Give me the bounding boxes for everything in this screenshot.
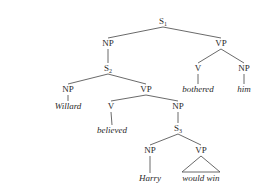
category-label: V bbox=[108, 101, 115, 111]
tree-branch bbox=[108, 74, 146, 84]
category-label: NP bbox=[144, 145, 156, 155]
syntax-tree-diagram: S1NPVPS2VNPbotheredhimNPVPWillardVNPbeli… bbox=[0, 0, 267, 193]
category-label: NP bbox=[238, 63, 250, 73]
tree-nodes: S1NPVPS2VNPbotheredhimNPVPWillardVNPbeli… bbox=[55, 16, 252, 183]
category-label: S1 bbox=[159, 16, 167, 27]
category-label: S2 bbox=[104, 63, 112, 74]
category-label: VP bbox=[140, 84, 152, 94]
tree-branch bbox=[150, 134, 178, 145]
tree-edges bbox=[68, 27, 244, 173]
tree-branch bbox=[108, 27, 163, 38]
terminal-word: would win bbox=[182, 173, 220, 183]
category-label: S3 bbox=[174, 123, 182, 134]
tree-branch bbox=[163, 27, 221, 38]
tree-branch bbox=[221, 49, 244, 63]
tree-branch bbox=[178, 134, 201, 145]
category-label: NP bbox=[172, 101, 184, 111]
tree-branch bbox=[198, 49, 221, 63]
category-label: NP bbox=[62, 84, 74, 94]
category-label: VP bbox=[215, 38, 227, 48]
terminal-word: him bbox=[237, 84, 251, 94]
category-label: NP bbox=[102, 38, 114, 48]
terminal-word: bothered bbox=[182, 84, 214, 94]
constituent-triangle bbox=[182, 156, 220, 172]
terminal-word: Harry bbox=[138, 173, 161, 183]
category-label: V bbox=[195, 63, 202, 73]
category-label: VP bbox=[195, 145, 207, 155]
terminal-word: believed bbox=[97, 125, 127, 135]
tree-branch bbox=[111, 112, 112, 125]
tree-branch bbox=[68, 74, 108, 84]
terminal-word: Willard bbox=[55, 101, 82, 111]
tree-branch bbox=[111, 95, 146, 101]
